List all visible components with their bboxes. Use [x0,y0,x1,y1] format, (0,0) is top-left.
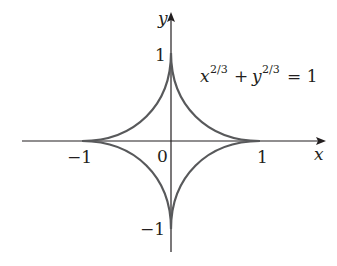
eq-equals: = 1 [287,66,317,86]
x-axis-label: x [314,144,324,164]
origin-label: 0 [157,146,168,166]
y-axis-label: y [157,8,168,28]
eq-x: x [200,66,210,86]
x-tick-1: 1 [257,147,268,167]
y-tick-neg1: −1 [140,219,165,239]
eq-x-exp: 2/3 [210,63,228,76]
equation-label: x 2/3 + y 2/3 = 1 [200,63,317,86]
y-tick-1: 1 [155,45,166,65]
eq-y-exp: 2/3 [262,63,280,76]
eq-plus: + [234,66,248,86]
astroid-diagram: y x 1 −1 −1 1 0 x 2/3 + y 2/3 = 1 [0,0,337,266]
eq-y: y [251,66,262,86]
x-tick-neg1: −1 [67,147,92,167]
